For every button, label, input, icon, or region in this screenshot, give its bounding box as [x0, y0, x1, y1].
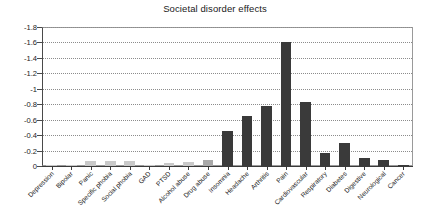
y-axis-tick-label: -0.4 [24, 131, 37, 140]
y-axis-tick-label: -1.8 [24, 23, 37, 32]
x-axis-labels: DepressionBipolarPanicSpecific phobiaSoc… [42, 170, 413, 211]
bar [261, 106, 272, 166]
bar [359, 158, 370, 166]
y-axis-tick-label: -1 [30, 84, 37, 93]
bars-layer [42, 27, 413, 166]
y-axis-tick-label: -0.2 [24, 146, 37, 155]
y-axis: -1.8-1.6-1.4-1.2-1-0.8-0.6-0.4-0.20 [0, 27, 42, 167]
chart-container: Societal disorder effects -1.8-1.6-1.4-1… [0, 0, 430, 211]
y-axis-tick-label: -0.8 [24, 100, 37, 109]
y-axis-tick-label: -1.6 [24, 38, 37, 47]
y-axis-tick-label: -1.2 [24, 69, 37, 78]
bar [281, 42, 292, 166]
bar [339, 143, 350, 166]
x-axis-tick-label: Depression [0, 170, 55, 211]
bar [320, 153, 331, 166]
y-axis-tick-label: -1.4 [24, 53, 37, 62]
chart-title: Societal disorder effects [0, 3, 430, 14]
bar [300, 102, 311, 166]
bar [222, 131, 233, 166]
bar [242, 116, 253, 166]
y-axis-tick-label: -0.6 [24, 115, 37, 124]
